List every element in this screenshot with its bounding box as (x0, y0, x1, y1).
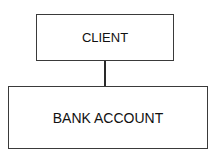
client-bank-connector (104, 61, 106, 86)
bank-account-label: BANK ACCOUNT (53, 110, 163, 126)
client-node: CLIENT (36, 14, 174, 61)
bank-account-node: BANK ACCOUNT (8, 86, 208, 149)
client-label: CLIENT (82, 30, 128, 45)
